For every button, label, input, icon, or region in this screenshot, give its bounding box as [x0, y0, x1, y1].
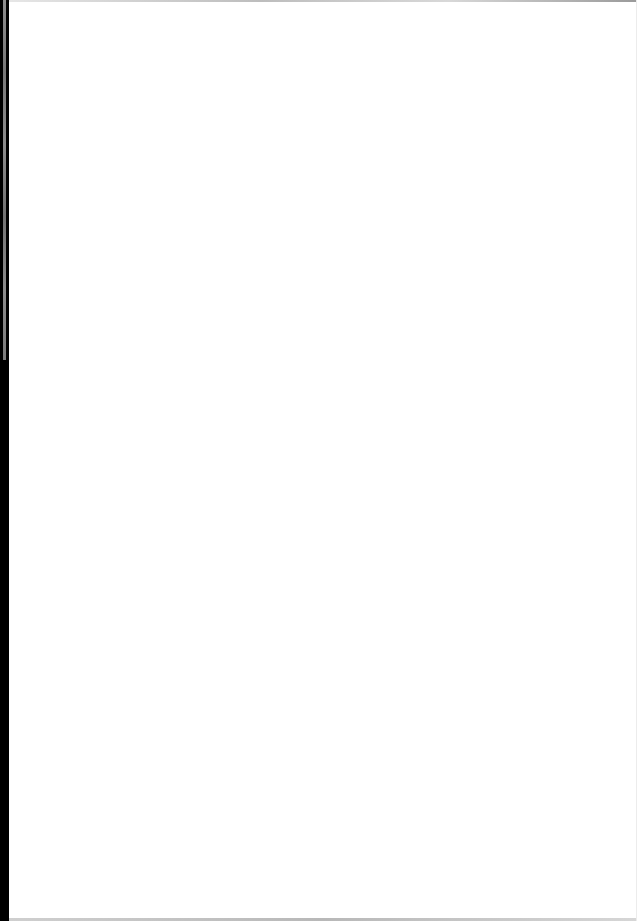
binding-fray-mark — [3, 0, 6, 360]
scanned-page — [0, 0, 637, 921]
page-content — [40, 40, 597, 881]
top-page-edge — [9, 0, 637, 2]
